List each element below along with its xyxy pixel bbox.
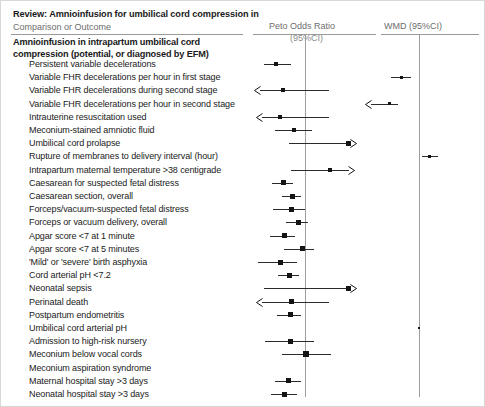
outcome-row[interactable]: Rupture of membranes to delivery interva… bbox=[1, 150, 485, 163]
outcome-label: Intrauterine resuscitation used bbox=[29, 111, 146, 124]
outcome-label: Neonatal sepsis bbox=[29, 282, 92, 295]
peto-ci-line bbox=[291, 170, 349, 171]
peto-ci-line bbox=[262, 117, 329, 118]
outcome-label: Forceps/vacuum-suspected fetal distress bbox=[29, 203, 189, 216]
peto-point-estimate bbox=[303, 351, 309, 357]
peto-ci-line bbox=[262, 302, 329, 303]
wmd-point-estimate bbox=[388, 102, 391, 105]
peto-point-estimate bbox=[290, 194, 295, 199]
outcome-label: Meconium-stained amniotic fluid bbox=[29, 124, 154, 137]
peto-point-estimate bbox=[274, 62, 278, 66]
outcome-label: Caesarean for suspected fetal distress bbox=[29, 177, 179, 190]
outcome-row[interactable]: Perinatal death bbox=[1, 296, 485, 309]
outcome-row[interactable]: Persistent variable decelerations bbox=[1, 58, 485, 71]
outcome-label: Variable FHR decelerations per hour in f… bbox=[29, 71, 220, 84]
peto-point-estimate bbox=[296, 220, 301, 225]
outcome-row[interactable]: Maternal hospital stay >3 days bbox=[1, 375, 485, 388]
peto-arrow-right-icon bbox=[350, 284, 357, 293]
outcome-label: Intrapartum maternal temperature >38 cen… bbox=[29, 164, 221, 177]
peto-point-estimate bbox=[328, 168, 332, 172]
peto-point-estimate bbox=[287, 273, 292, 278]
peto-arrow-right-icon bbox=[350, 139, 357, 148]
outcome-label: Variable FHR decelerations per hour in s… bbox=[29, 98, 235, 111]
outcome-label: Umbilical cord arterial pH bbox=[29, 322, 127, 335]
outcome-row[interactable]: Caesarean section, overall bbox=[1, 190, 485, 203]
outcome-label: Caesarean section, overall bbox=[29, 190, 133, 203]
peto-ci-line bbox=[264, 288, 351, 289]
peto-point-estimate bbox=[289, 207, 294, 212]
outcome-rows-container: Persistent variable decelerationsVariabl… bbox=[1, 1, 485, 407]
outcome-label: Cord arterial pH <7.2 bbox=[29, 269, 111, 282]
peto-point-estimate bbox=[288, 339, 293, 344]
outcome-row[interactable]: Variable FHR decelerations per hour in s… bbox=[1, 98, 485, 111]
outcome-row[interactable]: Meconium-stained amniotic fluid bbox=[1, 124, 485, 137]
outcome-label: 'Mild' or 'severe' birth asphyxia bbox=[29, 256, 147, 269]
peto-arrow-left-icon bbox=[254, 86, 261, 95]
outcome-label: Forceps or vacuum delivery, overall bbox=[29, 216, 167, 229]
wmd-point-estimate bbox=[418, 327, 420, 329]
outcome-label: Variable FHR decelerations during second… bbox=[29, 84, 217, 97]
outcome-label: Perinatal death bbox=[29, 296, 88, 309]
peto-arrow-right-icon bbox=[348, 166, 355, 175]
wmd-arrow-left-icon bbox=[365, 100, 372, 109]
peto-arrow-left-icon bbox=[256, 298, 263, 307]
outcome-label: Umbilical cord prolapse bbox=[29, 137, 120, 150]
peto-point-estimate bbox=[292, 128, 296, 132]
outcome-row[interactable]: Umbilical cord prolapse bbox=[1, 137, 485, 150]
outcome-row[interactable]: Neonatal sepsis bbox=[1, 282, 485, 295]
outcome-row[interactable]: Umbilical cord arterial pH bbox=[1, 322, 485, 335]
peto-point-estimate bbox=[278, 260, 283, 265]
peto-ci-line bbox=[289, 143, 351, 144]
peto-ci-line bbox=[260, 90, 329, 91]
outcome-row[interactable]: 'Mild' or 'severe' birth asphyxia bbox=[1, 256, 485, 269]
outcome-label: Rupture of membranes to delivery interva… bbox=[29, 150, 218, 163]
outcome-row[interactable]: Variable FHR decelerations per hour in f… bbox=[1, 71, 485, 84]
outcome-label: Postpartum endometritis bbox=[29, 309, 124, 322]
outcome-label: Apgar score <7 at 1 minute bbox=[29, 230, 135, 243]
outcome-label: Maternal hospital stay >3 days bbox=[29, 375, 148, 388]
peto-point-estimate bbox=[289, 299, 294, 304]
outcome-row[interactable]: Postpartum endometritis bbox=[1, 309, 485, 322]
wmd-point-estimate bbox=[400, 76, 403, 79]
outcome-label: Meconium below vocal cords bbox=[29, 348, 142, 361]
outcome-row[interactable]: Neonatal hospital stay >3 days bbox=[1, 388, 485, 401]
outcome-row[interactable]: Forceps or vacuum delivery, overall bbox=[1, 216, 485, 229]
forest-plot-page: Review: Amnioinfusion for umbilical cord… bbox=[0, 0, 485, 407]
outcome-label: Persistent variable decelerations bbox=[29, 58, 156, 71]
wmd-point-estimate bbox=[428, 155, 431, 158]
peto-point-estimate bbox=[282, 392, 287, 397]
outcome-row[interactable]: Variable FHR decelerations during second… bbox=[1, 84, 485, 97]
outcome-row[interactable]: Apgar score <7 at 5 minutes bbox=[1, 243, 485, 256]
outcome-label: Meconium aspiration syndrome bbox=[29, 362, 151, 375]
outcome-row[interactable]: Forceps/vacuum-suspected fetal distress bbox=[1, 203, 485, 216]
outcome-row[interactable]: Caesarean for suspected fetal distress bbox=[1, 177, 485, 190]
outcome-row[interactable]: Meconium below vocal cords bbox=[1, 348, 485, 361]
outcome-label: Apgar score <7 at 5 minutes bbox=[29, 243, 139, 256]
outcome-row[interactable]: Cord arterial pH <7.2 bbox=[1, 269, 485, 282]
peto-point-estimate bbox=[281, 88, 285, 92]
peto-point-estimate bbox=[288, 312, 293, 317]
peto-point-estimate bbox=[278, 115, 282, 119]
peto-point-estimate bbox=[281, 180, 286, 185]
outcome-row[interactable]: Admission to high-risk nursery bbox=[1, 335, 485, 348]
peto-arrow-left-icon bbox=[256, 113, 263, 122]
peto-point-estimate bbox=[286, 378, 291, 383]
peto-point-estimate bbox=[282, 233, 287, 238]
outcome-label: Neonatal hospital stay >3 days bbox=[29, 388, 149, 401]
peto-point-estimate bbox=[300, 246, 305, 251]
outcome-row[interactable]: Apgar score <7 at 1 minute bbox=[1, 230, 485, 243]
outcome-row[interactable]: Meconium aspiration syndrome bbox=[1, 362, 485, 375]
outcome-label: Admission to high-risk nursery bbox=[29, 335, 147, 348]
outcome-row[interactable]: Intrapartum maternal temperature >38 cen… bbox=[1, 164, 485, 177]
wmd-ci-line bbox=[371, 104, 398, 105]
outcome-row[interactable]: Intrauterine resuscitation used bbox=[1, 111, 485, 124]
